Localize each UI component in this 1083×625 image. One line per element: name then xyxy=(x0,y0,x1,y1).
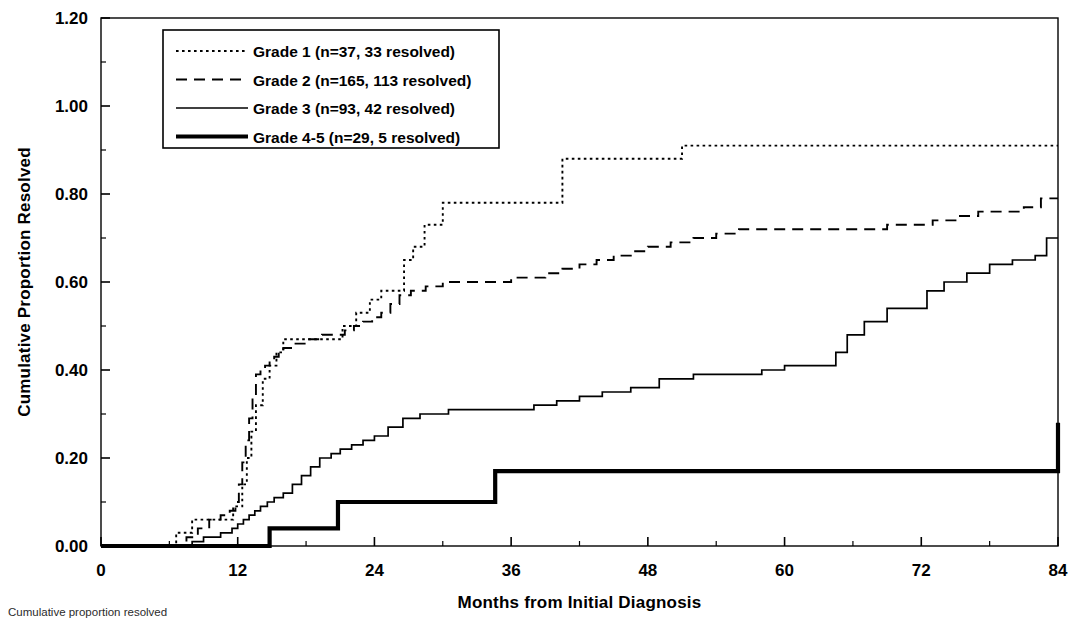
chart-figure: 0122436486072840.000.200.400.600.801.001… xyxy=(0,0,1083,625)
y-tick-label: 1.00 xyxy=(55,97,88,116)
x-tick-label: 72 xyxy=(912,561,931,580)
figure-caption: Cumulative proportion resolved xyxy=(8,606,1078,624)
x-tick-label: 0 xyxy=(96,561,105,580)
legend-label-grade2: Grade 2 (n=165, 113 resolved) xyxy=(253,72,471,89)
y-tick-label: 0.20 xyxy=(55,449,88,468)
y-tick-label: 0.00 xyxy=(55,537,88,556)
chart-legend: Grade 1 (n=37, 33 resolved)Grade 2 (n=16… xyxy=(163,30,499,148)
x-tick-label: 36 xyxy=(502,561,521,580)
x-tick-label: 60 xyxy=(775,561,794,580)
x-tick-label: 48 xyxy=(638,561,657,580)
legend-label-grade3: Grade 3 (n=93, 42 resolved) xyxy=(253,100,455,117)
series-line-grade-2 xyxy=(101,198,1058,546)
y-tick-label: 0.80 xyxy=(55,185,88,204)
y-tick-label: 1.20 xyxy=(55,9,88,28)
y-tick-label: 0.40 xyxy=(55,361,88,380)
x-tick-label: 84 xyxy=(1049,561,1068,580)
legend-label-grade45: Grade 4-5 (n=29, 5 resolved) xyxy=(253,129,460,146)
series-line-grade-1 xyxy=(101,146,1058,546)
x-tick-label: 24 xyxy=(365,561,384,580)
y-axis-title: Cumulative Proportion Resolved xyxy=(15,147,34,417)
cumulative-incidence-plot: 0122436486072840.000.200.400.600.801.001… xyxy=(0,0,1083,625)
y-tick-label: 0.60 xyxy=(55,273,88,292)
series-line-grade-3 xyxy=(101,238,1058,546)
x-tick-label: 12 xyxy=(228,561,247,580)
series-layer xyxy=(101,146,1058,546)
axis-titles: Months from Initial DiagnosisCumulative … xyxy=(15,147,701,612)
legend-label-grade1: Grade 1 (n=37, 33 resolved) xyxy=(253,43,455,60)
